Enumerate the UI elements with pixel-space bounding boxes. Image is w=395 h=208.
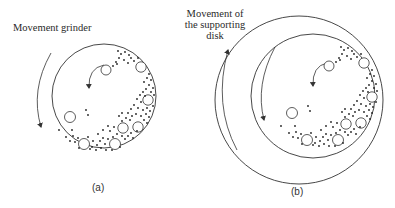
supporting-disk-b — [215, 16, 383, 184]
grinding-bowl-b — [251, 34, 375, 158]
rotation-arrow-grinder-a — [37, 53, 51, 127]
label-movement-supporting-disk: Movement of the supporting disk — [182, 8, 248, 41]
panel-b — [215, 16, 383, 184]
label-line-2: the supporting — [182, 19, 248, 30]
caption-a: (a) — [92, 182, 104, 193]
rotation-arrow-disk-b — [222, 50, 237, 150]
label-line-3: disk — [182, 30, 248, 41]
grinding-bowl-a — [52, 44, 156, 148]
rotation-arrow-grinder-b — [261, 47, 275, 120]
label-movement-grinder: Movement grinder — [13, 22, 91, 33]
grinding-balls-a — [65, 62, 154, 150]
caption-b: (b) — [291, 186, 303, 197]
label-line-1: Movement of — [182, 8, 248, 19]
panel-a — [37, 44, 156, 151]
